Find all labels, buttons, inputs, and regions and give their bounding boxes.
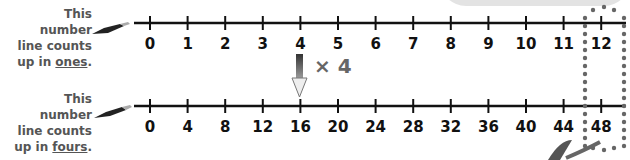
pen-icon: [92, 22, 130, 34]
tick-label: 9: [483, 35, 493, 53]
tick-label: 8: [220, 118, 230, 136]
tick-label: 40: [516, 118, 537, 136]
pen-icon: [94, 105, 132, 118]
number-lines-diagram: 0123456789101112 04812162024283236404448…: [0, 0, 630, 160]
multiply-label: × 4: [314, 54, 352, 78]
tick-label: 36: [478, 118, 499, 136]
tick-label: 4: [295, 35, 305, 53]
tick-label: 1: [182, 35, 192, 53]
tick-label: 3: [258, 35, 268, 53]
tick-label: 6: [370, 35, 380, 53]
tick-label: 7: [408, 35, 418, 53]
tick-label: 20: [328, 118, 349, 136]
tick-label: 10: [516, 35, 537, 53]
tick-label: 48: [591, 118, 612, 136]
tick-label: 16: [290, 118, 311, 136]
tick-label: 11: [553, 35, 574, 53]
multiply-arrow-icon: [292, 54, 307, 97]
tick-label: 32: [440, 118, 461, 136]
tick-label: 28: [403, 118, 424, 136]
tick-label: 24: [365, 118, 386, 136]
tick-label: 0: [145, 118, 155, 136]
tick-label: 8: [446, 35, 456, 53]
tick-label: 4: [182, 118, 192, 136]
tick-label: 2: [220, 35, 230, 53]
tick-label: 5: [333, 35, 343, 53]
tick-label: 0: [145, 35, 155, 53]
tick-label: 12: [252, 118, 273, 136]
top-labels: 0123456789101112: [145, 35, 612, 53]
tick-label: 12: [591, 35, 612, 53]
bottom-labels: 04812162024283236404448: [145, 118, 612, 136]
tick-label: 44: [553, 118, 574, 136]
